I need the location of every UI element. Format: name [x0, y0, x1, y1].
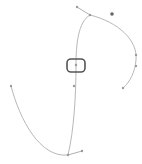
upper-arc-path[interactable]: [90, 15, 136, 88]
center-point[interactable]: [75, 64, 77, 66]
dark-marker-icon: [110, 12, 114, 16]
right-anchor-point[interactable]: [135, 54, 137, 56]
bottom-handle-line: [68, 151, 82, 155]
top-anchor-point[interactable]: [89, 14, 91, 16]
left-start-point[interactable]: [10, 85, 12, 87]
lower-left-arc-path[interactable]: [11, 86, 68, 155]
mid-point[interactable]: [73, 85, 75, 87]
bottom-handle-point[interactable]: [81, 150, 83, 152]
top-handle-line: [77, 7, 90, 15]
right-end-point[interactable]: [122, 87, 124, 89]
path-editor-canvas[interactable]: [0, 0, 142, 164]
bezier-path-drawing[interactable]: [0, 0, 142, 164]
bottom-anchor-point[interactable]: [67, 154, 69, 156]
top-handle-point[interactable]: [76, 6, 78, 8]
main-stem-path[interactable]: [68, 15, 90, 155]
right-handle-point[interactable]: [135, 65, 137, 67]
